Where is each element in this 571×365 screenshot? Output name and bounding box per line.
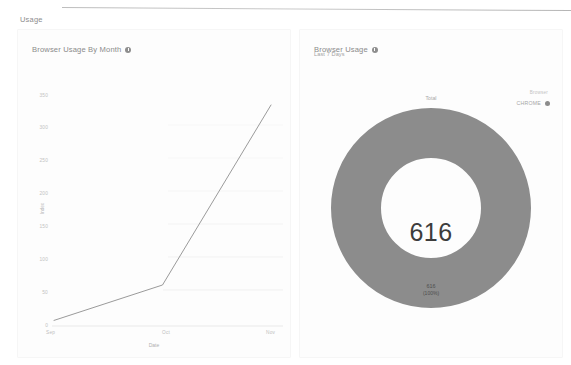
x-tick-label: Nov	[266, 330, 275, 335]
page-title: Usage	[20, 15, 43, 24]
donut-center-value: 616	[300, 218, 562, 247]
donut-chart-plot[interactable]	[331, 108, 531, 308]
x-tick-label: Sep	[46, 330, 55, 335]
browser-usage-donut-card: Browser Usage Last 7 Days Browser CHROME…	[300, 30, 562, 357]
x-axis-title: Date	[18, 342, 290, 348]
donut-slice-percent: (100%)	[300, 290, 562, 297]
donut-slice-value: 616	[300, 283, 562, 290]
info-icon[interactable]	[372, 47, 378, 53]
line-chart-plot	[18, 30, 290, 357]
donut-slice-chrome	[356, 133, 506, 283]
x-tick-label: Oct	[162, 330, 170, 335]
legend-color-dot	[545, 101, 550, 106]
header-divider	[62, 7, 571, 11]
donut-slice-label: 616 (100%)	[300, 283, 562, 297]
donut-total-label: Total	[300, 95, 562, 101]
donut-card-subtitle: Last 7 Days	[314, 51, 345, 57]
series-line-chrome	[54, 105, 271, 320]
browser-usage-by-month-card: Browser Usage By Month Index 350 300 250…	[18, 30, 290, 357]
